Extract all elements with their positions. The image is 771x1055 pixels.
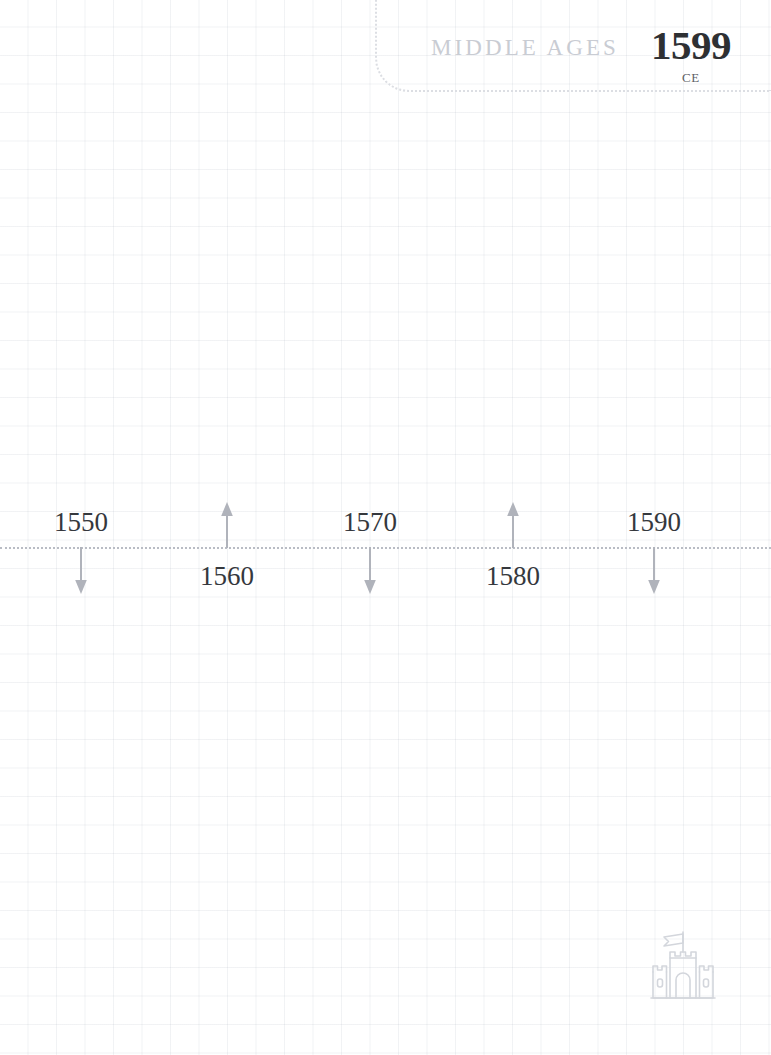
era-suffix: CE (682, 70, 700, 86)
era-label: MIDDLE AGES (431, 26, 619, 59)
timeline-tick-arrow (219, 501, 235, 553)
timeline-tick-arrow (362, 547, 378, 599)
timeline-tick-label: 1570 (343, 509, 397, 536)
timeline-tick-label: 1590 (627, 509, 681, 536)
timeline-tick-arrow (73, 547, 89, 599)
castle-icon (645, 928, 721, 1006)
timeline-tick-arrow (505, 501, 521, 553)
era-header: MIDDLE AGES 1599 CE (375, 0, 771, 92)
timeline-tick-arrow (646, 547, 662, 599)
timeline-tick-label: 1550 (54, 509, 108, 536)
timeline-tick-label: 1580 (486, 563, 540, 590)
era-year-block: 1599 CE (651, 26, 731, 86)
timeline-tick-label: 1560 (200, 563, 254, 590)
era-year: 1599 (651, 26, 731, 65)
